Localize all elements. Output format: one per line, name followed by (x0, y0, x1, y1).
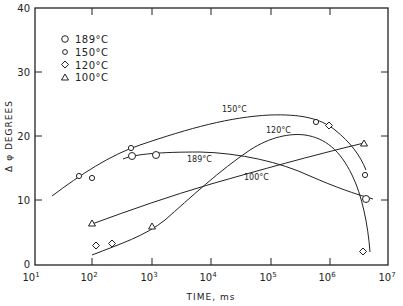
y-axis-title: Δ φ DEGREES (4, 100, 14, 172)
curve-label-150c: 150°C (222, 105, 247, 114)
x-tick-label: 105 (259, 271, 276, 283)
curve-label-120c: 120°C (266, 126, 291, 135)
x-tick-label: 104 (199, 271, 217, 283)
legend-label: 189°C (75, 34, 109, 45)
x-tick-label: 101 (22, 271, 39, 283)
diamond-marker-icon (62, 61, 69, 68)
data-point-small-circle (89, 175, 94, 180)
curve-label-100c: 100°C (244, 173, 269, 182)
legend-label: 150°C (75, 47, 109, 58)
chart: 0 10 20 30 40 101 102 103 104 105 106 10… (0, 0, 403, 306)
y-tick-label: 30 (17, 67, 30, 78)
x-tick-label: 107 (378, 271, 395, 283)
small-circle-marker-icon (63, 50, 68, 55)
data-point-small-circle (313, 119, 318, 124)
series-120c-markers (93, 122, 367, 255)
data-point-triangle (361, 140, 368, 146)
data-point-small-circle (76, 173, 81, 178)
x-tick-label: 102 (80, 271, 97, 283)
triangle-marker-icon (62, 74, 69, 80)
data-point-large-circle (363, 196, 370, 203)
x-ticks-bottom (92, 258, 330, 265)
y-tick-label: 10 (17, 195, 30, 206)
y-tick-label: 40 (17, 3, 30, 14)
y-tick-labels: 0 10 20 30 40 (17, 3, 30, 270)
large-circle-marker-icon (62, 36, 69, 43)
data-point-small-circle (362, 172, 367, 177)
data-point-large-circle (153, 152, 160, 159)
legend-item-150: 150°C (63, 47, 109, 58)
legend: 189°C 150°C 120°C 100°C (62, 34, 109, 83)
legend-item-189: 189°C (62, 34, 109, 45)
x-tick-label: 103 (140, 271, 157, 283)
x-tick-label: 106 (318, 271, 336, 283)
legend-label: 100°C (75, 72, 109, 83)
data-point-large-circle (129, 153, 136, 160)
x-tick-labels: 101 102 103 104 105 106 107 (22, 271, 395, 283)
legend-item-100: 100°C (62, 72, 109, 83)
x-axis-title: TIME, ms (186, 292, 236, 302)
data-point-triangle (149, 223, 156, 229)
data-point-small-circle (128, 145, 133, 150)
legend-label: 120°C (75, 60, 109, 71)
data-point-diamond (360, 248, 367, 255)
curve-label-189c: 189°C (187, 155, 212, 164)
x-ticks-top (92, 8, 330, 15)
y-ticks-right (381, 72, 388, 200)
y-tick-label: 0 (24, 259, 30, 270)
y-ticks-left (35, 72, 42, 200)
data-point-diamond (93, 242, 100, 249)
legend-item-120: 120°C (62, 60, 109, 71)
y-tick-label: 20 (17, 131, 30, 142)
